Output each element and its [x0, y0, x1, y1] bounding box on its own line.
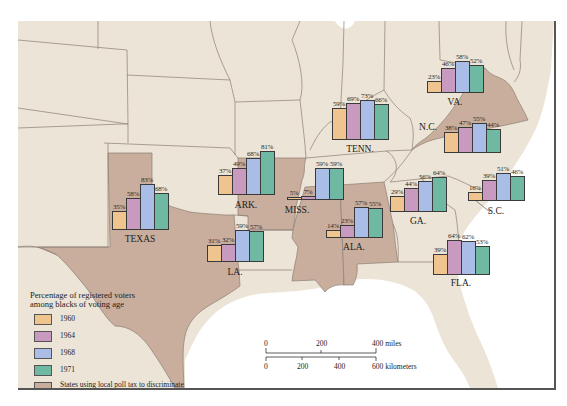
bar-nc-1968 [472, 123, 487, 153]
bar-chart-ark: 37%49%68%81% [218, 151, 274, 195]
pct-label-fla-1968: 62% [462, 233, 474, 241]
pct-label-tenn-1968: 73% [361, 92, 373, 100]
pct-label-ga-1960: 29% [391, 188, 403, 196]
legend-label-1964: 1964 [60, 332, 75, 341]
scale-km-200: 200 [297, 362, 308, 371]
pct-label-ga-1968: 56% [419, 173, 431, 181]
bar-ala-1968 [354, 207, 369, 238]
state-label-ga: GA. [410, 216, 426, 226]
bar-ark-1960 [218, 175, 233, 195]
state-label-ala: ALA. [343, 242, 365, 252]
bar-texas-1971 [154, 193, 169, 230]
pct-label-la-1971: 57% [250, 223, 262, 231]
scale-bar: 0 200 400 miles 0 200 400 600 kilometers [264, 339, 434, 379]
pct-label-miss-1971: 59% [330, 160, 342, 168]
pct-label-sc-1968: 51% [497, 165, 509, 173]
bar-la-1968 [235, 230, 250, 262]
pct-label-ala-1968: 57% [355, 199, 367, 207]
scale-km-400: 400 [334, 362, 345, 371]
bar-texas-1964 [126, 198, 141, 230]
pct-label-la-1960: 31% [208, 237, 220, 245]
state-label-ark: ARK. [235, 200, 257, 210]
state-label-va: VA. [448, 97, 463, 107]
bar-ala-1960 [326, 230, 341, 238]
pct-label-fla-1964: 64% [448, 232, 460, 240]
pct-label-la-1964: 32% [222, 236, 234, 244]
bar-chart-ga: 29%44%56%64% [390, 177, 446, 212]
bar-miss-1964 [301, 196, 316, 200]
pct-label-la-1968: 59% [236, 222, 248, 230]
bar-sc-1968 [496, 173, 511, 201]
pct-label-ark-1971: 81% [261, 143, 273, 151]
bar-va-1964 [441, 68, 456, 93]
bar-chart-texas: 35%58%83%68% [112, 184, 168, 230]
swatch-1964 [34, 331, 52, 342]
legend: Percentage of registered voters among bl… [30, 291, 260, 309]
bar-ark-1968 [246, 158, 261, 195]
bar-chart-miss: 5%7%59%59% [287, 168, 343, 200]
scale-miles-0: 0 [264, 339, 268, 348]
poll-tax-line2: against black voters until 1965 [60, 390, 184, 391]
pct-label-miss-1968: 59% [316, 160, 328, 168]
pct-label-ark-1960: 37% [219, 167, 231, 175]
pct-label-va-1964: 46% [442, 60, 454, 68]
bar-ga-1968 [418, 181, 433, 212]
bar-texas-1960 [112, 211, 127, 230]
bar-nc-1964 [458, 127, 473, 153]
pct-label-miss-1964: 7% [304, 188, 313, 196]
pct-label-nc-1964: 47% [459, 119, 471, 127]
bar-miss-1960 [287, 197, 302, 200]
scale-km-0: 0 [264, 362, 268, 371]
bar-la-1960 [207, 245, 222, 262]
bar-ga-1964 [404, 188, 419, 212]
bar-texas-1968 [140, 184, 155, 230]
bar-nc-1971 [486, 129, 501, 153]
bar-ga-1960 [390, 196, 405, 212]
state-label-tenn: TENN. [346, 144, 374, 154]
pct-label-va-1968: 58% [456, 53, 468, 61]
swatch-1968 [34, 348, 52, 359]
pct-label-ga-1964: 44% [405, 180, 417, 188]
pct-label-ga-1971: 64% [433, 169, 445, 177]
bar-fla-1968 [461, 241, 476, 275]
bar-sc-1964 [482, 180, 497, 201]
state-label-miss: MISS. [285, 205, 310, 215]
pct-label-tenn-1971: 66% [375, 96, 387, 104]
pct-label-nc-1971: 44% [487, 121, 499, 129]
bar-ga-1971 [432, 177, 447, 212]
pct-label-miss-1960: 5% [290, 189, 299, 197]
legend-label-1968: 1968 [60, 349, 75, 358]
bar-sc-1960 [468, 192, 483, 201]
map-frame: 35%58%83%68%TEXAS37%49%68%81%ARK.31%32%5… [18, 21, 556, 390]
pct-label-fla-1971: 53% [476, 238, 488, 246]
state-label-texas: TEXAS [125, 234, 156, 244]
swatch-poll-tax [34, 382, 52, 390]
pct-label-sc-1960: 16% [469, 184, 481, 192]
bar-chart-va: 23%46%58%52% [427, 61, 483, 93]
bar-chart-fla: 39%64%62%53% [433, 240, 489, 275]
bar-ark-1971 [260, 151, 275, 195]
bar-fla-1964 [447, 240, 462, 275]
bar-va-1971 [469, 65, 484, 93]
state-label-sc: S.C. [488, 206, 504, 216]
bar-sc-1971 [510, 176, 525, 201]
legend-item-1971: 1971 [34, 364, 75, 376]
pct-label-ala-1964: 23% [341, 217, 353, 225]
scale-bar-lines [264, 339, 434, 379]
bar-tenn-1971 [374, 104, 389, 140]
scale-km-600: 600 kilometers [372, 362, 417, 371]
pct-label-sc-1964: 39% [483, 172, 495, 180]
pct-label-texas-1968: 83% [141, 176, 153, 184]
legend-title-line2: among blacks of voting age [30, 300, 260, 309]
pct-label-ark-1964: 49% [233, 160, 245, 168]
pct-label-sc-1971: 46% [511, 168, 523, 176]
bar-nc-1960 [444, 132, 459, 153]
bar-chart-sc: 16%39%51%46% [468, 173, 524, 201]
bar-fla-1960 [433, 254, 448, 275]
pct-label-va-1971: 52% [470, 57, 482, 65]
bar-chart-nc: 38%47%55%44% [444, 123, 500, 153]
bar-chart-tenn: 59%69%73%66% [332, 100, 388, 140]
bar-tenn-1960 [332, 108, 347, 140]
bar-miss-1968 [315, 168, 330, 200]
legend-item-1964: 1964 [34, 330, 75, 342]
